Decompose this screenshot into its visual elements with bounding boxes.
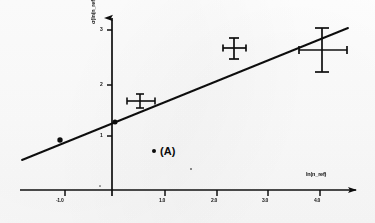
x-tick-label-2: 2.0 (211, 198, 217, 204)
x-tick-label-neg1: -1.0 (56, 198, 63, 204)
legend-marker-icon (152, 149, 156, 153)
data-point (113, 120, 118, 125)
legend-label: (A) (160, 145, 176, 157)
x-tick-label-4: 4.0 (314, 198, 320, 204)
y-tick-label-3: 3 (100, 27, 102, 33)
x-axis-label: ln(n_ref) (306, 172, 326, 178)
data-point (57, 137, 62, 142)
y-tick-label-1: 1 (100, 133, 102, 139)
figure-canvas: σ(ln(n_ref)) ln(n_ref) 3 2 1 -1.0 1.0 2.… (0, 0, 375, 223)
data-point (223, 38, 246, 59)
legend: (A) (152, 145, 176, 157)
data-point (127, 94, 155, 108)
y-axis-label: σ(ln(n_ref)) (90, 0, 96, 24)
y-axis (107, 18, 112, 196)
y-tick-label-2: 2 (100, 82, 102, 88)
x-axis (20, 190, 356, 196)
plot-svg (0, 0, 375, 223)
x-tick-label-3: 3.0 (262, 198, 268, 204)
x-tick-label-1: 1.0 (159, 198, 165, 204)
data-point (299, 28, 347, 72)
